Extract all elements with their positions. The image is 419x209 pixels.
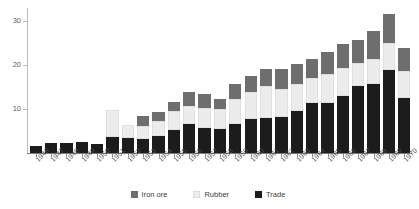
bar-group xyxy=(229,84,241,153)
x-axis-labels: 1946194719481949195019511952195319541955… xyxy=(28,154,412,188)
y-axis-tick-label: 10 xyxy=(0,104,21,113)
bar-segment-trade xyxy=(306,103,318,153)
bar-segment-iron-ore xyxy=(152,112,164,122)
bar-group xyxy=(398,48,410,153)
bar-segment-iron-ore xyxy=(291,64,303,84)
bar-segment-rubber xyxy=(352,63,364,86)
legend-item-trade[interactable]: Trade xyxy=(255,190,285,199)
bar-segment-iron-ore xyxy=(229,84,241,99)
bar-segment-rubber xyxy=(198,108,210,128)
bar-group xyxy=(337,44,349,153)
bar-group xyxy=(198,94,210,153)
bar-segment-rubber xyxy=(214,109,226,129)
bar-segment-iron-ore xyxy=(245,76,257,92)
bar-segment-rubber xyxy=(321,74,333,103)
bar-segment-trade xyxy=(352,86,364,153)
bar-group xyxy=(152,112,164,153)
chart-legend: Iron oreRubberTrade xyxy=(0,190,416,199)
bar-segment-trade xyxy=(383,70,395,153)
bar-group xyxy=(106,110,118,153)
bar-segment-iron-ore xyxy=(183,92,195,107)
bar-group xyxy=(352,40,364,153)
bar-segment-rubber xyxy=(106,110,118,138)
bar-segment-trade xyxy=(398,98,410,153)
bar-segment-iron-ore xyxy=(260,69,272,86)
y-axis-tick-label: 30 xyxy=(0,16,21,25)
bar-segment-iron-ore xyxy=(321,52,333,74)
bar-segment-trade xyxy=(367,84,379,153)
bar-segment-rubber xyxy=(260,86,272,118)
legend-item-iron-ore[interactable]: Iron ore xyxy=(131,190,168,199)
bar-segment-iron-ore xyxy=(198,94,210,109)
bar-segment-trade xyxy=(291,111,303,153)
bar-segment-rubber xyxy=(183,106,195,124)
bar-segment-rubber xyxy=(367,59,379,84)
bar-segment-iron-ore xyxy=(306,59,318,79)
bar-segment-iron-ore xyxy=(275,69,287,89)
bar-segment-rubber xyxy=(122,125,134,137)
bar-group xyxy=(260,69,272,153)
bar-segment-iron-ore xyxy=(367,31,379,59)
bar-group xyxy=(383,14,395,153)
bar-segment-rubber xyxy=(337,68,349,96)
bar-segment-iron-ore xyxy=(383,14,395,43)
bar-group xyxy=(275,69,287,153)
bar-group xyxy=(168,102,180,153)
bar-group xyxy=(321,52,333,153)
legend-swatch-icon xyxy=(131,191,138,198)
bar-segment-trade xyxy=(337,96,349,153)
bar-segment-rubber xyxy=(168,111,180,130)
bar-segment-rubber xyxy=(229,99,241,124)
bar-segment-rubber xyxy=(383,43,395,70)
bar-group xyxy=(183,92,195,154)
bar-segment-iron-ore xyxy=(214,99,226,108)
bar-segment-rubber xyxy=(291,84,303,111)
bar-segment-rubber xyxy=(152,121,164,136)
legend-item-rubber[interactable]: Rubber xyxy=(193,190,229,199)
bar-segment-iron-ore xyxy=(137,116,149,126)
bar-segment-rubber xyxy=(306,78,318,103)
bar-segment-rubber xyxy=(398,71,410,98)
bar-group xyxy=(367,31,379,153)
legend-label: Rubber xyxy=(204,190,229,199)
bar-segment-iron-ore xyxy=(352,40,364,63)
bar-segment-iron-ore xyxy=(398,48,410,70)
legend-label: Trade xyxy=(266,190,285,199)
bar-segment-iron-ore xyxy=(337,44,349,69)
y-axis-tick-label: 20 xyxy=(0,60,21,69)
bars-container xyxy=(28,8,412,153)
legend-swatch-icon xyxy=(255,191,262,198)
legend-label: Iron ore xyxy=(142,190,168,199)
bar-group xyxy=(214,99,226,153)
bar-segment-rubber xyxy=(137,126,149,139)
bar-segment-trade xyxy=(321,103,333,153)
legend-swatch-icon xyxy=(193,191,200,198)
bar-group xyxy=(306,59,318,153)
bar-segment-rubber xyxy=(275,89,287,117)
bar-group xyxy=(291,64,303,153)
bar-segment-iron-ore xyxy=(168,102,180,111)
bar-group xyxy=(245,76,257,153)
bar-segment-rubber xyxy=(245,92,257,119)
